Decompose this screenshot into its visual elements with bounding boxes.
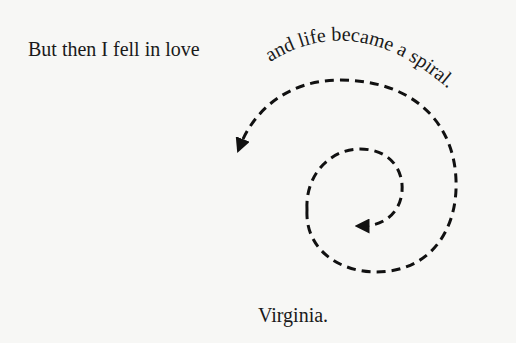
inner-spiral-arc <box>307 149 402 226</box>
spiral-graphic: and life became a spiral. <box>0 0 516 343</box>
outer-spiral-arc <box>240 80 456 272</box>
signature: Virginia. <box>258 304 328 327</box>
